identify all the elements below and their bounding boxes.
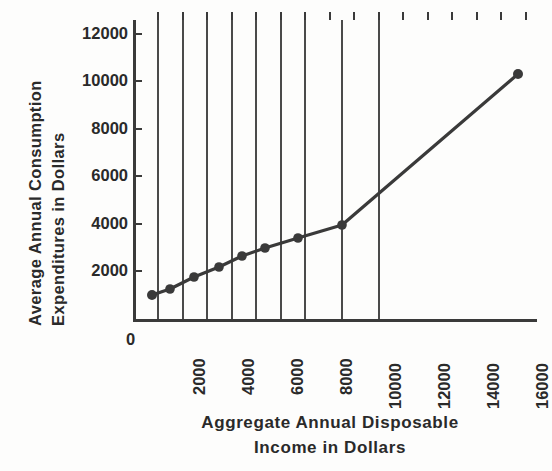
x-tick-label-14000: 14000 [484,363,503,409]
x-axis-title-line-2: Income in Dollars [120,435,540,460]
x-tick-label-8000: 8000 [337,358,356,395]
x-axis-tick-labels: 0 2000 4000 6000 8000 10000 12000 14000 … [0,0,552,471]
chart-figure: Average Annual Consumption Expenditures … [0,0,552,471]
x-tick-label-2000: 2000 [190,358,209,395]
x-tick-label-12000: 12000 [435,363,454,409]
x-axis-title-line-1: Aggregate Annual Disposable [120,410,540,435]
x-tick-label-4000: 4000 [239,358,258,395]
x-tick-label-6000: 6000 [288,358,307,395]
x-tick-label-0: 0 [126,330,135,349]
x-tick-label-10000: 10000 [386,363,405,409]
x-tick-label-16000: 16000 [533,363,552,409]
x-axis-title: Aggregate Annual Disposable Income in Do… [120,410,540,460]
